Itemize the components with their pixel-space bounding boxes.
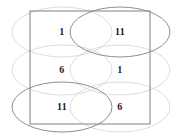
ellipse-layer-faint [12,7,170,132]
cell-label-r1c2: 11 [115,27,125,37]
rectangle-border [30,11,150,124]
ellipse-layer-strong [12,7,170,132]
outer-rectangle [30,11,150,124]
cell-label-r2c1: 6 [59,65,64,75]
cell-label-r1c1: 1 [59,27,64,37]
cell-label-r3c1: 11 [57,102,67,112]
figure-canvas [0,0,173,140]
cell-label-r3c2: 6 [117,102,122,112]
figure-container: 1 11 6 1 11 6 [0,0,173,140]
cell-label-r2c2: 1 [117,65,122,75]
